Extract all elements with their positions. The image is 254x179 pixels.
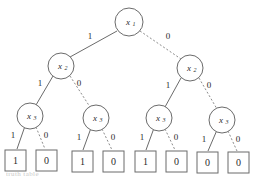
edge-n6-to-l6-1 [208,130,217,151]
leaf-l7[interactable]: 0 [228,152,249,173]
leaf-value: 0 [236,157,241,168]
leaf-value: 1 [80,156,85,167]
edge-n0-to-n1-1 [70,31,117,57]
edge-label-e8: 1 [77,132,82,142]
caption-fragment: truth table [6,170,39,179]
node-x2-n2[interactable]: x2 [177,55,203,81]
leaf-value: 0 [205,157,210,168]
leaf-l4[interactable]: 1 [135,151,156,172]
edge-label-e4: 1 [166,80,171,90]
node-x1-n0[interactable]: x1 [115,8,143,36]
edge-label-e6: 1 [11,130,16,140]
node-variable-subscript: 3 [162,117,166,123]
node-variable-label: x [26,111,31,121]
node-variable-label: x [92,113,97,123]
edge-label-e10: 1 [140,132,145,142]
node-variable-subscript: 2 [65,65,68,71]
node-x3-n6[interactable]: x3 [209,107,235,133]
edge-label-e12: 1 [202,134,207,144]
bdd-figure: x1x2x2x3x3x3x3 10101000 10101010101010 t… [0,0,254,179]
edge-label-e1: 0 [166,31,171,41]
edge-label-e3: 0 [77,78,82,88]
leaf-l1[interactable]: 0 [36,150,57,171]
node-variable-label: x [155,113,160,123]
leaf-l0[interactable]: 1 [5,150,26,171]
node-variable-label: x [186,63,191,73]
edge-label-e13: 0 [236,134,241,144]
node-variable-subscript: 2 [194,67,197,73]
node-variable-label: x [125,17,130,27]
edge-n5-to-l4-1 [146,128,154,150]
nodes-layer: x1x2x2x3x3x3x3 [17,8,235,133]
leaf-l3[interactable]: 0 [103,151,124,172]
edge-label-e5: 0 [207,80,212,90]
leaf-l2[interactable]: 1 [72,151,93,172]
edge-label-e0: 1 [88,31,93,41]
edge-label-e9: 0 [111,132,116,142]
node-variable-subscript: 3 [33,115,37,121]
edge-label-e7: 0 [44,130,49,140]
decision-tree-canvas: x1x2x2x3x3x3x3 10101000 10101010101010 [0,0,254,179]
leaf-value: 1 [13,155,18,166]
node-variable-label: x [57,61,62,71]
edge-label-e2: 1 [38,78,43,88]
leaf-l5[interactable]: 0 [166,151,187,172]
leaf-value: 0 [111,156,116,167]
edge-n4-to-l2-1 [83,128,91,150]
node-x2-n1[interactable]: x2 [48,53,74,79]
node-variable-subscript: 1 [133,21,136,27]
leaf-value: 0 [44,155,49,166]
edge-n0-to-n2-0 [140,31,181,59]
node-variable-subscript: 3 [99,117,103,123]
leaves-layer: 10101000 [5,150,249,173]
node-x3-n3[interactable]: x3 [17,103,43,129]
node-x3-n4[interactable]: x3 [83,105,109,131]
node-x3-n5[interactable]: x3 [146,105,172,131]
leaf-value: 0 [174,156,179,167]
edge-n3-to-l0-1 [17,126,25,149]
node-variable-label: x [218,115,223,125]
edges-layer [17,31,237,151]
leaf-value: 1 [143,156,148,167]
edge-label-e11: 0 [174,132,179,142]
node-variable-subscript: 3 [225,119,229,125]
leaf-l6[interactable]: 0 [197,152,218,173]
edge-labels-layer: 10101010101010 [11,31,241,144]
